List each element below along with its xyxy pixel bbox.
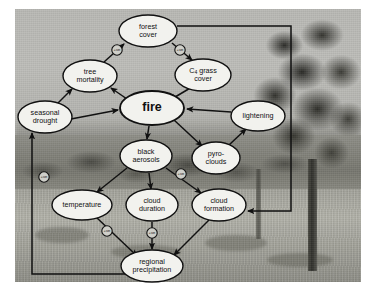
node-label: clouds (206, 157, 227, 166)
node-black-aerosols[interactable]: blackaerosols (120, 140, 172, 172)
badge-label: +ve (178, 171, 186, 176)
node-cloud-formation[interactable]: cloudformation (192, 189, 246, 221)
badge-label: +ve (114, 47, 122, 52)
node-regional-precipitation[interactable]: regionalprecipitation (121, 250, 183, 282)
edge-fire-to-pyro-clouds (174, 120, 202, 146)
node-label: lightening (243, 111, 274, 120)
edge-temperature-to-precipitation (96, 217, 137, 256)
badge-precipitation-drought-sign-badge: +ve (39, 172, 49, 182)
node-tree-mortality[interactable]: treemortality (63, 60, 117, 92)
edge-cloud-formation-to-precipitation (174, 220, 209, 255)
badge-label: +ve (104, 228, 112, 233)
node-label: cover (139, 30, 157, 39)
badge-cloud-duration-precip-sign-badge: +ve (147, 228, 157, 238)
node-fire[interactable]: fire (120, 91, 184, 125)
node-label: formation (204, 204, 234, 213)
edge-pyro-clouds-to-lightening (229, 129, 246, 145)
edge-seasonal-drought-to-tree-mortality (57, 89, 72, 104)
badge-temperature-precipitation-sign-badge: +ve (102, 226, 112, 236)
node-lightening[interactable]: lightening (231, 101, 285, 131)
node-temperature[interactable]: temperature (52, 190, 112, 220)
causal-loop-diagram: forestcoverC4 grasscovertreemortalityfir… (0, 0, 378, 299)
badge-label: +ve (41, 174, 49, 179)
node-label: temperature (63, 200, 102, 209)
edge-fire-to-black-aerosols (147, 126, 149, 139)
edge-black-aerosols-to-temperature (97, 168, 127, 192)
node-label: mortality (76, 75, 104, 84)
node-label: duration (139, 204, 165, 213)
edge-lightening-to-fire (187, 109, 231, 112)
node-label: precipitation (133, 265, 172, 274)
node-label: cover (194, 74, 212, 83)
figure-canvas: forestcoverC4 grasscovertreemortalityfir… (0, 0, 378, 299)
badge-black-aerosols-cloud-sign-badge: +ve (176, 169, 186, 179)
node-cloud-duration[interactable]: cloudduration (126, 189, 178, 221)
badge-forest-cover-c4-grass-sign-badge: +ve (175, 45, 185, 55)
node-label: drought (33, 116, 57, 125)
edge-fire-to-tree-mortality (111, 88, 127, 99)
badge-label: +ve (177, 47, 185, 52)
node-label: fire (142, 100, 162, 114)
node-c4-grass-cover[interactable]: C4 grasscover (175, 59, 231, 91)
node-seasonal-drought[interactable]: seasonaldrought (18, 101, 72, 133)
badge-label: +ve (149, 230, 157, 235)
badge-tree-mortality-forest-cover-sign-badge: +ve (112, 45, 122, 55)
node-label: aerosols (132, 155, 160, 164)
node-forest-cover[interactable]: forestcover (119, 15, 177, 47)
edge-seasonal-drought-to-fire (71, 110, 118, 119)
edge-black-aerosols-to-cloud-duration (149, 173, 151, 189)
node-pyro-clouds[interactable]: pyro-clouds (192, 142, 240, 174)
